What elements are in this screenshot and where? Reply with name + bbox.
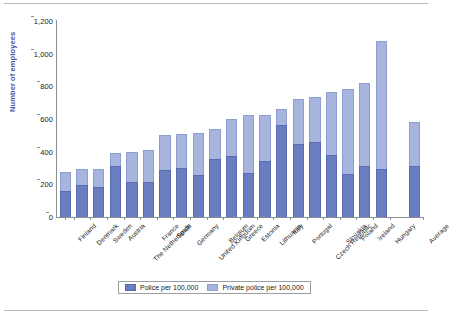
bar-segment-police[interactable] [126, 182, 137, 217]
y-tick-label: 1,200 [34, 17, 57, 26]
x-tick-label: Ireland [376, 222, 396, 242]
bar-segment-police[interactable] [293, 144, 304, 218]
bar-segment-private-police[interactable] [342, 89, 353, 174]
bar-segment-police[interactable] [309, 142, 320, 217]
x-tick-mark [340, 217, 341, 220]
y-tick-label: 200 [40, 180, 57, 189]
bar-segment-police[interactable] [209, 159, 220, 217]
y-tick-label: 1,000 [34, 49, 57, 58]
x-tick-mark [65, 217, 66, 220]
x-tick-mark [307, 217, 308, 220]
bar-segment-police[interactable] [226, 156, 237, 217]
bar-segment-private-police[interactable] [326, 92, 337, 155]
bar-stack[interactable] [193, 133, 204, 217]
bar-stack[interactable] [176, 134, 187, 217]
bar-stack[interactable] [143, 150, 154, 217]
legend-item[interactable]: Police per 100,000 [125, 284, 198, 291]
bar-segment-police[interactable] [159, 170, 170, 217]
bar-stack[interactable] [376, 41, 387, 217]
bar-stack[interactable] [93, 169, 104, 218]
bar-stack[interactable] [276, 109, 287, 217]
bar-segment-private-police[interactable] [126, 152, 137, 182]
bar-segment-police[interactable] [176, 168, 187, 217]
bar-segment-private-police[interactable] [60, 172, 71, 191]
bar-stack[interactable] [110, 153, 121, 217]
x-tick-mark [207, 217, 208, 220]
figure-top-rule [4, 3, 428, 4]
x-tick-label-text: Hungary [394, 222, 417, 245]
y-tick-mark [31, 16, 34, 17]
x-tick-mark [290, 217, 291, 220]
bar-stack[interactable] [60, 172, 71, 217]
bar-segment-police[interactable] [409, 166, 420, 217]
bar-segment-police[interactable] [259, 161, 270, 217]
bar-segment-private-police[interactable] [159, 135, 170, 170]
y-tick-label: 400 [40, 147, 57, 156]
bar-segment-private-police[interactable] [276, 109, 287, 125]
bar-stack[interactable] [226, 119, 237, 217]
bar-segment-police[interactable] [93, 187, 104, 217]
bar-segment-private-police[interactable] [409, 122, 420, 166]
x-tick-label: Finland [77, 222, 98, 243]
bar-stack[interactable] [409, 122, 420, 217]
x-tick-label: Germany [195, 222, 220, 247]
y-tick-label: 600 [40, 115, 57, 124]
bar-stack[interactable] [359, 83, 370, 217]
bar-segment-police[interactable] [193, 175, 204, 217]
x-tick-mark [157, 217, 158, 220]
bar-segment-police[interactable] [243, 173, 254, 217]
bar-segment-private-police[interactable] [293, 99, 304, 143]
legend-swatch-police [125, 284, 136, 291]
y-axis-title: Number of employees [8, 32, 17, 112]
bar-segment-private-police[interactable] [376, 41, 387, 169]
x-tick-label: Average [427, 222, 450, 245]
x-tick-mark [223, 217, 224, 220]
bar-segment-police[interactable] [110, 166, 121, 217]
bar-stack[interactable] [126, 152, 137, 217]
bar-stack[interactable] [243, 115, 254, 217]
x-tick-mark [257, 217, 258, 220]
legend-swatch-private [207, 284, 218, 291]
bar-segment-police[interactable] [276, 125, 287, 217]
y-tick-mark [31, 49, 34, 50]
x-tick-mark [273, 217, 274, 220]
x-tick-mark [373, 217, 374, 220]
y-tick-mark [37, 179, 40, 180]
bar-segment-private-police[interactable] [359, 83, 370, 166]
bar-stack[interactable] [209, 129, 220, 217]
bar-segment-police[interactable] [143, 182, 154, 217]
x-tick-mark [124, 217, 125, 220]
bar-segment-police[interactable] [376, 169, 387, 217]
bar-segment-private-police[interactable] [176, 134, 187, 168]
bar-segment-police[interactable] [359, 166, 370, 217]
x-tick-mark [173, 217, 174, 220]
bar-segment-police[interactable] [326, 155, 337, 217]
bar-segment-police[interactable] [342, 174, 353, 217]
bar-segment-private-police[interactable] [209, 129, 220, 159]
x-tick-mark [74, 217, 75, 220]
bar-segment-private-police[interactable] [243, 115, 254, 172]
bar-stack[interactable] [259, 115, 270, 217]
bar-segment-private-police[interactable] [110, 153, 121, 166]
bar-segment-private-police[interactable] [309, 97, 320, 142]
bar-segment-private-police[interactable] [93, 169, 104, 188]
bar-segment-private-police[interactable] [76, 169, 87, 185]
y-tick-mark [37, 147, 40, 148]
bar-segment-private-police[interactable] [193, 133, 204, 175]
bar-segment-private-police[interactable] [226, 119, 237, 156]
bar-segment-private-police[interactable] [259, 115, 270, 162]
legend-label: Private police per 100,000 [222, 284, 303, 291]
x-tick-mark [423, 217, 424, 220]
bar-stack[interactable] [76, 169, 87, 217]
bar-stack[interactable] [293, 99, 304, 217]
bar-stack[interactable] [326, 92, 337, 217]
bar-segment-private-police[interactable] [143, 150, 154, 182]
bar-stack[interactable] [342, 89, 353, 217]
legend-item[interactable]: Private police per 100,000 [207, 284, 303, 291]
x-tick-label-text: Ireland [376, 222, 396, 242]
bar-segment-police[interactable] [60, 191, 71, 217]
bar-stack[interactable] [309, 97, 320, 217]
legend-label: Police per 100,000 [140, 284, 198, 291]
bar-segment-police[interactable] [76, 185, 87, 217]
bar-stack[interactable] [159, 135, 170, 217]
